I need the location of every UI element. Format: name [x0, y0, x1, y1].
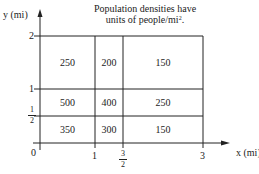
grid-cell: 150: [123, 125, 203, 135]
y-tick-0: 0: [31, 148, 36, 158]
grid-cell: 400: [95, 98, 123, 108]
y-tick-1: 1: [29, 84, 34, 94]
grid-cell: 250: [40, 58, 95, 68]
x-tick-den: 2: [121, 160, 125, 169]
y-tick-half: 1 2: [28, 106, 36, 125]
x-tick-num: 3: [121, 149, 125, 158]
x-tick-three-halves: 3 2: [119, 150, 127, 169]
title-exponent: 2: [179, 15, 182, 21]
grid-cell: 500: [40, 98, 95, 108]
title-line-2: units of people/mi: [106, 14, 179, 25]
grid-cell: 150: [123, 58, 203, 68]
y-axis-label: y (mi): [3, 10, 28, 20]
grid-cell: 200: [95, 58, 123, 68]
grid-cell: 250: [123, 98, 203, 108]
x-axis-label: x (mi): [236, 148, 259, 158]
x-tick-3: 3: [200, 151, 205, 161]
diagram-title: Population densities have units of peopl…: [70, 3, 220, 25]
grid-cell: 350: [40, 125, 95, 135]
title-period: .: [182, 14, 185, 25]
grid-cell: 300: [95, 125, 123, 135]
grid-diagram: [0, 0, 259, 174]
y-tick-half-num: 1: [30, 105, 34, 114]
y-tick-2: 2: [29, 31, 34, 41]
x-tick-1: 1: [92, 151, 97, 161]
y-axis-arrow-icon: [38, 9, 43, 17]
x-axis-arrow-icon: [221, 141, 230, 146]
y-tick-half-den: 2: [30, 116, 34, 125]
title-line-1: Population densities have: [94, 3, 196, 14]
